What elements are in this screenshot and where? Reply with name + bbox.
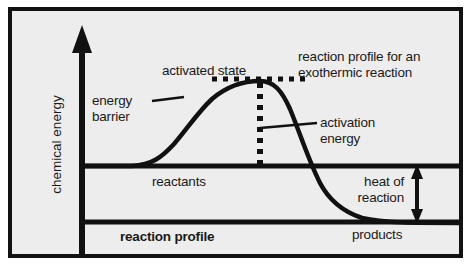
activation-energy-label-line-2: energy (320, 131, 360, 147)
y-axis-label: chemical energy (49, 70, 64, 220)
products-label: products (352, 227, 402, 243)
activation-energy-leader-line (260, 123, 317, 128)
energy-barrier-label-line-2: barrier (92, 109, 130, 125)
energy-barrier-leader-line (152, 97, 184, 101)
heat-of-reaction-label-line-1: heat of (302, 174, 404, 190)
figure-frame: chemical energy reaction profile reactio… (8, 7, 463, 258)
activation-energy-label-line-1: activation (320, 115, 375, 131)
energy-barrier-label-line-1: energy (92, 93, 132, 109)
figure-title-line-2: exothermic reaction (298, 65, 412, 81)
x-axis-label: reaction profile (120, 229, 214, 245)
activated-state-label: activated state (162, 63, 246, 79)
reaction-profile-figure: chemical energy reaction profile reactio… (0, 0, 472, 271)
reaction-profile-diagram (12, 11, 459, 254)
figure-title-line-1: reaction profile for an (298, 49, 420, 65)
reactants-label: reactants (152, 174, 206, 190)
heat-of-reaction-arrow (411, 164, 423, 224)
heat-of-reaction-label-line-2: reaction (302, 190, 404, 206)
